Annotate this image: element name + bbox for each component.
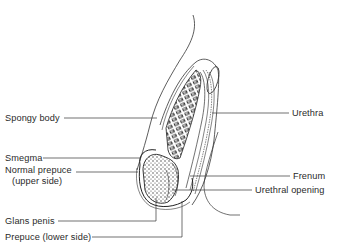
label-prepuce-lower: Prepuce (lower side) [5, 232, 91, 242]
label-normal-prepuce: Normal prepuce [5, 165, 72, 175]
label-frenum: Frenum [293, 171, 325, 181]
glans-tissue [143, 154, 179, 203]
leader-glans-penis [58, 198, 156, 221]
label-smegma: Smegma [5, 153, 42, 163]
label-normal-prepuce-sub: (upper side) [12, 176, 62, 186]
label-urethral-opening: Urethral opening [255, 185, 325, 195]
diagram-canvas: Spongy body Smegma Normal prepuce (upper… [0, 0, 339, 245]
label-urethra: Urethra [292, 108, 323, 118]
scrotum-outline [204, 132, 240, 215]
label-spongy-body: Spongy body [5, 113, 60, 123]
label-glans-penis: Glans penis [5, 216, 55, 226]
spongy-body-tissue [166, 70, 201, 159]
